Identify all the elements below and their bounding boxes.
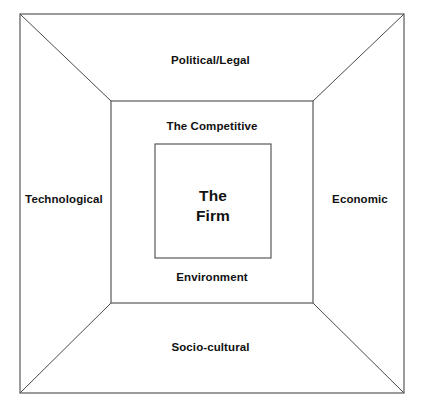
label-the-firm: The Firm [155,186,271,227]
label-the-firm-line-1: The [155,186,271,206]
environment-layers-diagram: Political/Legal Technological Economic S… [0,0,421,403]
label-environment: Environment [111,271,313,284]
label-the-competitive: The Competitive [111,120,313,133]
label-technological: Technological [18,193,110,206]
label-political-legal: Political/Legal [0,54,421,67]
label-socio-cultural: Socio-cultural [0,341,421,354]
label-the-firm-line-2: Firm [155,206,271,226]
label-economic: Economic [315,193,405,206]
